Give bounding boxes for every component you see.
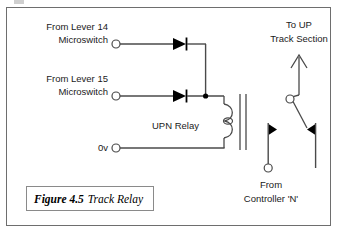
label-lever-15-line1: From Lever 15 (26, 73, 108, 86)
terminal-lever-15-icon (112, 92, 120, 100)
figure-caption: Figure 4.5 Track Relay (26, 186, 154, 211)
label-upn-relay: UPN Relay (152, 120, 199, 133)
figure-caption-title: Track Relay (88, 193, 143, 205)
label-track-section-line1: To UP (259, 19, 338, 32)
label-track-section-line2: Track Section (259, 33, 338, 46)
terminal-0v-icon (112, 144, 120, 152)
label-controller-line1: From (240, 179, 302, 192)
junction-dot-icon (203, 93, 208, 98)
track-section-branch (286, 55, 307, 128)
label-zero-volt: 0v (60, 142, 108, 155)
switch-contact-left-icon (269, 124, 278, 135)
lever-15-branch (112, 90, 224, 103)
label-lever-15-line2: Microswitch (26, 86, 108, 99)
controller-branch (264, 164, 272, 172)
label-lever-14-line2: Microswitch (26, 34, 108, 47)
switch-blade (293, 102, 307, 129)
upn-relay-coil-icon (224, 94, 247, 150)
lever-14-branch (112, 38, 206, 97)
figure-caption-label: Figure 4.5 (34, 193, 84, 205)
label-lever-14-line1: From Lever 14 (26, 21, 108, 34)
diode-lever-14-icon (173, 38, 186, 50)
switch-contact-right-icon (307, 124, 316, 135)
zero-volt-branch (112, 144, 225, 152)
terminal-lever-14-icon (112, 40, 120, 48)
wire-arrow-to-pivot (293, 95, 299, 97)
diode-lever-15-icon (173, 90, 186, 102)
relay-contact-pair (268, 123, 315, 168)
terminal-controller-icon (264, 164, 272, 172)
figure-track-relay: From Lever 14 Microswitch From Lever 15 … (0, 0, 338, 235)
label-controller-line2: Controller 'N' (232, 193, 310, 206)
